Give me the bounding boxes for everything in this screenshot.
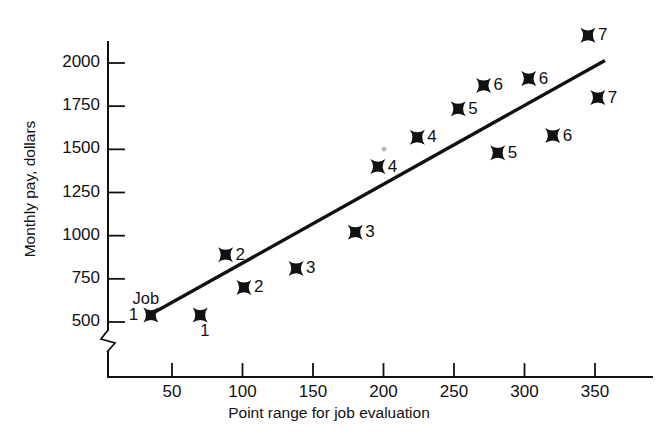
x-tick-label: 150 bbox=[273, 382, 353, 402]
data-point-marker bbox=[143, 308, 158, 323]
artifact-dot bbox=[381, 147, 386, 152]
x-tick-label: 100 bbox=[203, 382, 283, 402]
y-tick-label: 1000 bbox=[22, 225, 100, 245]
data-point-label: 3 bbox=[306, 258, 315, 278]
x-tick-label: 300 bbox=[485, 382, 565, 402]
data-point-label: 6 bbox=[539, 69, 548, 89]
x-tick-label: 350 bbox=[555, 382, 635, 402]
data-point-marker bbox=[580, 28, 595, 43]
data-point-marker bbox=[590, 90, 605, 105]
data-point-label: 4 bbox=[388, 157, 397, 177]
data-point-marker bbox=[348, 225, 363, 240]
data-point-marker bbox=[521, 71, 536, 86]
y-tick-label: 750 bbox=[22, 268, 100, 288]
data-point-marker bbox=[236, 280, 251, 295]
data-point-label: 4 bbox=[427, 127, 436, 147]
x-axis-title: Point range for job evaluation bbox=[0, 404, 658, 422]
y-tick-label: 1250 bbox=[22, 182, 100, 202]
data-point-marker bbox=[370, 159, 385, 174]
data-point-marker bbox=[289, 261, 304, 276]
chart-annotation: Job bbox=[133, 289, 160, 308]
data-point-marker bbox=[410, 130, 425, 145]
x-tick-label: 50 bbox=[132, 382, 212, 402]
y-tick-label: 1750 bbox=[22, 95, 100, 115]
x-tick-label: 200 bbox=[344, 382, 424, 402]
data-point-label: 3 bbox=[365, 222, 374, 242]
data-point-label: 2 bbox=[236, 245, 245, 265]
data-point-label: 6 bbox=[563, 126, 572, 146]
data-point-label: 6 bbox=[494, 75, 503, 95]
data-point-label: 2 bbox=[254, 277, 263, 297]
chart-annotation: 1 bbox=[200, 321, 209, 340]
data-point-label: 7 bbox=[598, 25, 607, 45]
axis-break-symbol bbox=[101, 330, 115, 352]
y-tick-label: 500 bbox=[22, 311, 100, 331]
y-tick-label: 2000 bbox=[22, 52, 100, 72]
data-point-marker bbox=[451, 101, 466, 116]
data-point-marker bbox=[545, 128, 560, 143]
data-point-label: 1 bbox=[129, 305, 138, 325]
data-point-label: 5 bbox=[508, 143, 517, 163]
x-tick-label: 250 bbox=[414, 382, 494, 402]
trend-line bbox=[151, 61, 604, 314]
data-point-marker bbox=[218, 247, 233, 262]
data-point-marker bbox=[490, 145, 505, 160]
data-point-marker bbox=[476, 78, 491, 93]
data-point-label: 7 bbox=[608, 88, 617, 108]
data-point-label: 5 bbox=[468, 99, 477, 119]
y-tick-label: 1500 bbox=[22, 138, 100, 158]
